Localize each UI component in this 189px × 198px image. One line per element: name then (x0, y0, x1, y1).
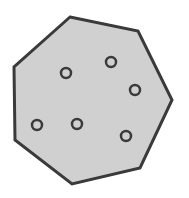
point-circle (121, 131, 131, 141)
heptagon-shape (14, 17, 172, 184)
point-circle (130, 85, 140, 95)
point-circle (61, 68, 71, 78)
point-circle (106, 57, 116, 67)
point-circle (32, 120, 42, 130)
diagram-canvas (0, 0, 189, 198)
point-circle (72, 119, 82, 129)
